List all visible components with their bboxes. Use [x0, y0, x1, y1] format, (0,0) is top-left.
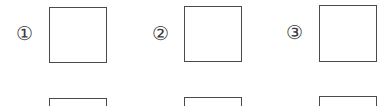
- answer-box-3[interactable]: [319, 5, 377, 62]
- label-1: ①: [16, 24, 33, 43]
- label-3: ③: [286, 23, 303, 42]
- answer-box-1[interactable]: [49, 7, 107, 63]
- label-2: ②: [152, 24, 169, 43]
- answer-box-4[interactable]: [49, 98, 107, 106]
- answer-box-6[interactable]: [319, 96, 377, 106]
- answer-box-2[interactable]: [184, 6, 242, 62]
- answer-box-5[interactable]: [184, 97, 242, 106]
